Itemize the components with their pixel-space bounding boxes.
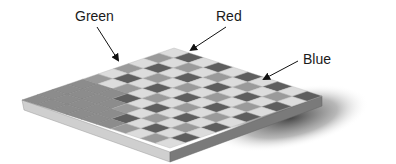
bayer-filter-diagram: Green Red Blue [0, 0, 396, 164]
sensor-illustration [0, 0, 396, 164]
green-pointer-arrow [97, 27, 118, 60]
blue-label: Blue [303, 52, 331, 66]
red-pointer-arrow [191, 27, 226, 50]
green-label: Green [75, 9, 114, 23]
red-label: Red [216, 9, 242, 23]
blue-pointer-arrow [264, 61, 298, 79]
